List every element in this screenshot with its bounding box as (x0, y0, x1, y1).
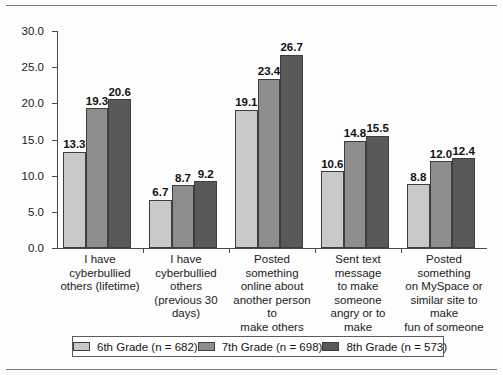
bar-value-label: 6.7 (152, 187, 168, 199)
y-tick-label: 20.0 (22, 97, 44, 109)
legend-item-label: 6th Grade (n = 682) (97, 341, 198, 353)
top-rule (6, 5, 497, 6)
bar-value-label: 8.8 (410, 172, 426, 184)
bar[interactable]: 20.6 (108, 99, 131, 248)
x-category-label: I havecyberbulliedothers (lifetime) (57, 253, 143, 294)
bar-group: 8.812.012.4 (401, 31, 487, 248)
bar[interactable]: 6.7 (149, 200, 172, 248)
figure-canvas: 0.05.010.015.020.025.030.0 13.319.320.66… (0, 0, 503, 375)
bar[interactable]: 19.3 (86, 108, 109, 248)
legend-swatch-icon (322, 342, 339, 351)
bar[interactable]: 8.7 (172, 185, 195, 248)
x-category-label-line: fun of someone (401, 321, 487, 335)
bar[interactable]: 15.5 (366, 136, 389, 248)
plot-area: 13.319.320.66.78.79.219.123.426.710.614.… (57, 31, 487, 248)
y-tick-label: 0.0 (28, 242, 44, 254)
y-tick-mark (52, 248, 57, 249)
chart-legend: 6th Grade (n = 682)7th Grade (n = 698)8t… (72, 336, 444, 357)
bar-group: 10.614.815.5 (315, 31, 401, 248)
bar-value-label: 13.3 (63, 139, 85, 151)
x-category-label-line: Posted (229, 253, 315, 267)
x-category-label-line: on MySpace or (401, 280, 487, 294)
bar-group: 19.123.426.7 (229, 31, 315, 248)
bar[interactable]: 12.4 (452, 158, 475, 248)
bar[interactable]: 19.1 (235, 110, 258, 248)
legend-swatch-icon (198, 342, 215, 351)
bar-value-label: 23.4 (258, 66, 280, 78)
x-category-label: I have cyberbulliedothers(previous 30 da… (143, 253, 229, 321)
bar-value-label: 12.0 (430, 149, 452, 161)
legend-item-label: 8th Grade (n = 573) (346, 341, 447, 353)
x-category-label-line: angry or to make (315, 307, 401, 334)
x-category-label-line: to make someone (315, 280, 401, 307)
y-tick-label: 15.0 (22, 134, 44, 146)
bar[interactable]: 26.7 (280, 55, 303, 248)
bar[interactable]: 23.4 (258, 79, 281, 248)
x-category-label: Postedsomethingon MySpace orsimilar site… (401, 253, 487, 335)
x-category-label-line: Posted (401, 253, 487, 267)
y-tick-label: 5.0 (28, 206, 44, 218)
bar[interactable]: 14.8 (344, 141, 367, 248)
bar-value-label: 9.2 (198, 169, 214, 181)
bar[interactable]: 10.6 (321, 171, 344, 248)
x-category-label-line: something (229, 267, 315, 281)
bar[interactable]: 9.2 (194, 181, 217, 248)
x-category-label-line: others (143, 280, 229, 294)
legend-item[interactable]: 7th Grade (n = 698) (198, 341, 323, 353)
x-category-label-line: another person to (229, 294, 315, 321)
bar-value-label: 19.3 (86, 96, 108, 108)
x-category-label-line: Sent text message (315, 253, 401, 280)
bar-value-label: 12.4 (452, 146, 474, 158)
legend-item-label: 7th Grade (n = 698) (222, 341, 323, 353)
bar-group: 13.319.320.6 (57, 31, 143, 248)
y-tick-label: 30.0 (22, 25, 44, 37)
x-category-label-line: similar site to make (401, 294, 487, 321)
x-category-label-line: something (401, 267, 487, 281)
bar-value-label: 10.6 (321, 159, 343, 171)
x-category-label-line: (previous 30 days) (143, 294, 229, 321)
bar-value-label: 8.7 (175, 173, 191, 185)
bar-value-label: 26.7 (280, 42, 302, 54)
x-category-label-line: I have cyberbullied (143, 253, 229, 280)
x-category-label: Postedsomethingonline aboutanother perso… (229, 253, 315, 348)
bar-value-label: 14.8 (344, 128, 366, 140)
bottom-rule (6, 369, 497, 370)
bar[interactable]: 13.3 (63, 152, 86, 248)
legend-item[interactable]: 6th Grade (n = 682) (73, 341, 198, 353)
legend-item[interactable]: 8th Grade (n = 573) (322, 341, 447, 353)
x-axis-line (57, 248, 487, 249)
y-tick-label: 25.0 (22, 61, 44, 73)
bar-value-label: 19.1 (235, 97, 257, 109)
x-category-label-line: online about (229, 280, 315, 294)
x-axis-category-labels: I havecyberbulliedothers (lifetime)I hav… (57, 253, 487, 327)
x-category-label-line: I have (57, 253, 143, 267)
bar-value-label: 15.5 (366, 123, 388, 135)
bar-group: 6.78.79.2 (143, 31, 229, 248)
bar[interactable]: 8.8 (407, 184, 430, 248)
y-tick-label: 10.0 (22, 170, 44, 182)
x-category-label-line: cyberbullied (57, 267, 143, 281)
y-axis-tick-labels: 0.05.010.015.020.025.030.0 (0, 31, 52, 248)
legend-swatch-icon (73, 342, 90, 351)
bar-value-label: 20.6 (108, 87, 130, 99)
x-category-label: Sent text messageto make someoneangry or… (315, 253, 401, 348)
x-category-label-line: others (lifetime) (57, 280, 143, 294)
bar[interactable]: 12.0 (430, 161, 453, 248)
